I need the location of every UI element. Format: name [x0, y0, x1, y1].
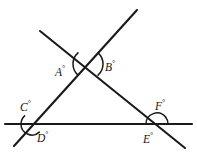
degree-symbol-b: °	[112, 59, 115, 68]
arc-B	[98, 53, 103, 75]
angle-label-f: F°	[155, 99, 165, 112]
rising-diagonal-line	[14, 10, 137, 146]
degree-symbol-f: °	[162, 98, 165, 107]
geometry-figure: A° B° C° D° F° E°	[0, 0, 197, 155]
angle-label-c: C°	[20, 100, 31, 113]
angle-letter-b: B	[105, 61, 112, 73]
angle-label-d: D°	[37, 131, 49, 144]
angle-letter-e: E	[143, 133, 150, 145]
degree-symbol-d: °	[45, 130, 48, 139]
degree-symbol-a: °	[62, 64, 65, 73]
angle-letter-f: F	[155, 100, 162, 112]
angle-letter-a: A	[55, 66, 62, 78]
angle-label-b: B°	[105, 60, 115, 73]
angle-letter-c: C	[20, 101, 28, 113]
figure-canvas	[0, 0, 197, 155]
angle-label-e: E°	[143, 132, 153, 145]
degree-symbol-e: °	[150, 131, 153, 140]
arc-A	[73, 53, 78, 75]
falling-diagonal-line	[40, 31, 185, 148]
degree-symbol-c: °	[28, 99, 31, 108]
arc-C	[21, 116, 25, 124]
angle-label-a: A°	[55, 65, 65, 78]
